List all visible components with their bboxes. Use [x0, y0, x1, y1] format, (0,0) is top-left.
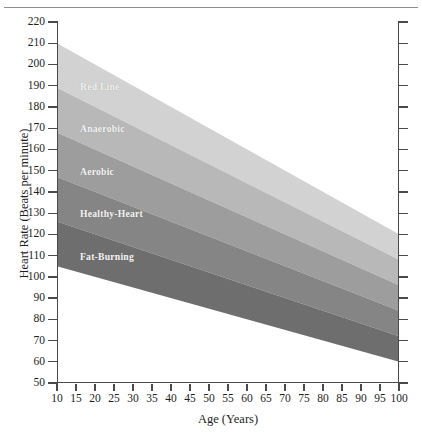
- zone-band-label-aerobic: Aerobic: [80, 166, 114, 177]
- y-axis-title: Heart Rate (Beats per minute): [17, 84, 32, 324]
- heart-rate-zones-figure: 5060708090100110120130140150160170180190…: [0, 0, 422, 440]
- band-labels-layer: Red LineAnaerobicAerobicHealthy-HeartFat…: [0, 0, 422, 440]
- zone-band-label-red-line: Red Line: [80, 81, 120, 92]
- x-axis-title: Age (Years): [57, 412, 399, 427]
- zone-band-label-healthy-heart: Healthy-Heart: [80, 208, 143, 219]
- zone-band-label-fat-burning: Fat-Burning: [80, 251, 134, 262]
- zone-band-label-anaerobic: Anaerobic: [80, 123, 125, 134]
